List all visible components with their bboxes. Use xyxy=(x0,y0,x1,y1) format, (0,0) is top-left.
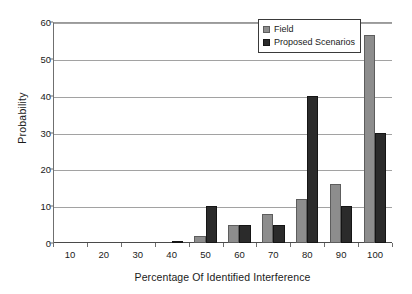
bar-cluster xyxy=(53,22,87,243)
x-tick-mark xyxy=(53,243,54,247)
bar-chart: Probability 0102030405060 10203040506070… xyxy=(0,0,412,294)
x-tick-label: 60 xyxy=(234,249,245,260)
x-tick-mark xyxy=(189,243,190,247)
x-tick-label: 50 xyxy=(200,249,211,260)
x-tick-label: 100 xyxy=(367,249,383,260)
bar-cluster xyxy=(155,22,189,243)
field-swatch-icon xyxy=(263,26,270,33)
x-tick-label: 20 xyxy=(99,249,110,260)
x-tick-mark xyxy=(87,243,88,247)
bar-field-60 xyxy=(228,225,239,243)
legend-label-field: Field xyxy=(274,24,294,35)
legend-label-proposed-scenarios: Proposed Scenarios xyxy=(274,37,355,48)
x-tick-label: 80 xyxy=(302,249,313,260)
bar-proposed-scenarios-80 xyxy=(307,96,318,243)
x-tick-mark xyxy=(392,243,393,247)
x-tick-mark xyxy=(223,243,224,247)
x-tick-label: 70 xyxy=(268,249,279,260)
bar-field-70 xyxy=(262,214,273,243)
legend-item-proposed-scenarios: Proposed Scenarios xyxy=(263,36,355,49)
y-tick-label: 20 xyxy=(0,164,51,175)
x-tick-mark xyxy=(290,243,291,247)
y-tick-label: 50 xyxy=(0,53,51,64)
x-tick-mark xyxy=(155,243,156,247)
x-tick-label: 10 xyxy=(65,249,76,260)
x-tick-mark xyxy=(324,243,325,247)
x-axis-title: Percentage Of Identified Interference xyxy=(53,271,392,283)
bar-field-50 xyxy=(194,236,205,243)
x-tick-label: 30 xyxy=(132,249,143,260)
bar-field-80 xyxy=(296,199,307,243)
bar-cluster xyxy=(121,22,155,243)
y-tick-label: 40 xyxy=(0,90,51,101)
x-tick-label: 40 xyxy=(166,249,177,260)
bar-cluster xyxy=(223,22,257,243)
y-tick-label: 60 xyxy=(0,17,51,28)
bar-cluster xyxy=(256,22,290,243)
bar-field-100 xyxy=(364,35,375,243)
x-tick-mark xyxy=(256,243,257,247)
bar-proposed-scenarios-90 xyxy=(341,206,352,243)
y-axis-title: Probability xyxy=(16,58,28,178)
legend-item-field: Field xyxy=(263,23,355,36)
x-tick-mark xyxy=(358,243,359,247)
bar-cluster xyxy=(324,22,358,243)
proposed-scenarios-swatch-icon xyxy=(263,39,270,46)
bar-proposed-scenarios-40 xyxy=(172,241,183,243)
y-tick-label: 10 xyxy=(0,201,51,212)
y-tick-label: 30 xyxy=(0,127,51,138)
y-tick-label: 0 xyxy=(0,238,51,249)
x-tick-label: 90 xyxy=(336,249,347,260)
x-tick-mark xyxy=(121,243,122,247)
bar-proposed-scenarios-60 xyxy=(239,225,250,243)
bars-layer xyxy=(53,22,392,243)
bar-cluster xyxy=(189,22,223,243)
bar-cluster xyxy=(290,22,324,243)
bar-proposed-scenarios-50 xyxy=(206,206,217,243)
bar-proposed-scenarios-100 xyxy=(375,133,386,244)
bar-cluster xyxy=(87,22,121,243)
legend: Field Proposed Scenarios xyxy=(258,19,361,53)
bar-field-90 xyxy=(330,184,341,243)
bar-cluster xyxy=(358,22,392,243)
bar-proposed-scenarios-70 xyxy=(273,225,284,243)
